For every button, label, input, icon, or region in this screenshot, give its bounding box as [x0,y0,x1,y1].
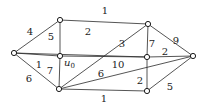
node-label-u0: u0 [64,57,75,70]
node-b [57,17,62,22]
edge-u0-e [59,56,60,89]
edge-weight-label: 10 [112,59,125,70]
edge-weight-label: 5 [167,81,173,92]
edge-weight-label: 1 [102,5,108,16]
edge-weight-label: 5 [48,31,54,42]
node-c [145,21,150,26]
edge-weight-label: 3 [119,38,125,49]
edge-weight-label: 9 [173,35,179,46]
edge-weight-label: 2 [137,75,143,86]
edge-weight-label: 7 [149,38,155,49]
node-g [190,53,195,58]
edge-weight-label: 6 [26,73,32,84]
edge-weight-label: 1 [101,93,107,104]
edge-weight-label: 4 [27,26,33,37]
edge-weight-label: 2 [85,26,91,37]
graph-diagram: 42161571037961225 u0 [0,0,204,110]
node-f [144,88,149,93]
edge-d-g [147,56,193,57]
edge-weight-label: 1 [36,59,42,70]
edge-weight-label: 2 [162,46,168,57]
edge-weight-label: 6 [98,68,104,79]
edge-e-f [59,89,147,91]
node-e [56,86,61,91]
node-d [144,54,149,59]
edge-weight-label: 7 [47,65,53,76]
weight-labels-layer: 42161571037961225 [26,5,179,104]
edge-b-c [60,20,148,24]
node-a [11,50,16,55]
node-u0 [57,53,62,58]
